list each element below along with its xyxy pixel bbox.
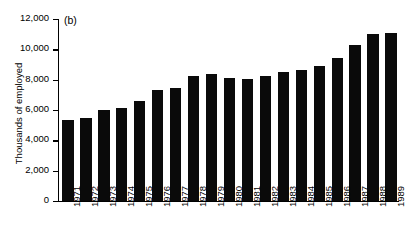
x-axis-tick-label: 1986: [341, 186, 352, 207]
x-axis-tick-label: 1981: [251, 186, 262, 207]
bar: [349, 45, 360, 201]
bar: [314, 66, 325, 201]
x-axis-tick-label: 1973: [107, 186, 118, 207]
x-axis-tick-label: 1975: [143, 186, 154, 207]
y-axis-tick-label: 2,000: [25, 164, 49, 175]
x-axis-tick-label: 1982: [269, 186, 280, 207]
bar: [170, 88, 181, 201]
bar: [152, 90, 163, 201]
bar: [278, 72, 289, 201]
x-axis-tick-label: 1979: [215, 186, 226, 207]
x-axis-tick-label: 1977: [179, 186, 190, 207]
bar: [385, 33, 396, 201]
bar: [332, 58, 343, 201]
y-axis-tick-label: 0: [44, 194, 49, 205]
y-axis-tick: 0: [53, 201, 58, 202]
x-axis-tick-label: 1988: [377, 186, 388, 207]
bar: [367, 34, 378, 201]
plot-area: 02,0004,0006,0008,00010,00012,000 197119…: [58, 19, 399, 201]
x-axis-tick-label: 1974: [125, 186, 136, 207]
x-axis-tick-label: 1972: [89, 186, 100, 207]
bar-series: [58, 19, 399, 201]
bar: [188, 76, 199, 201]
x-axis-tick-label: 1984: [305, 186, 316, 207]
x-axis-tick-label: 1980: [233, 186, 244, 207]
x-axis-tick-label: 1971: [71, 186, 82, 207]
bar: [260, 76, 271, 201]
y-axis-title: Thousands of employed: [13, 39, 24, 189]
x-axis-tick-label: 1989: [395, 186, 406, 207]
y-axis-tick-label: 10,000: [20, 42, 49, 53]
x-axis-tick-label: 1983: [287, 186, 298, 207]
y-axis-tick-label: 12,000: [20, 12, 49, 23]
x-axis-tick-label: 1976: [161, 186, 172, 207]
y-axis-tick-label: 4,000: [25, 133, 49, 144]
y-axis-tick-label: 6,000: [25, 103, 49, 114]
bar: [242, 79, 253, 201]
bar: [224, 78, 235, 201]
bar: [296, 70, 307, 201]
x-axis-tick-label: 1978: [197, 186, 208, 207]
bar: [206, 74, 217, 201]
x-axis-tick-label: 1987: [359, 186, 370, 207]
y-axis-tick-label: 8,000: [25, 73, 49, 84]
x-axis-tick-label: 1985: [323, 186, 334, 207]
